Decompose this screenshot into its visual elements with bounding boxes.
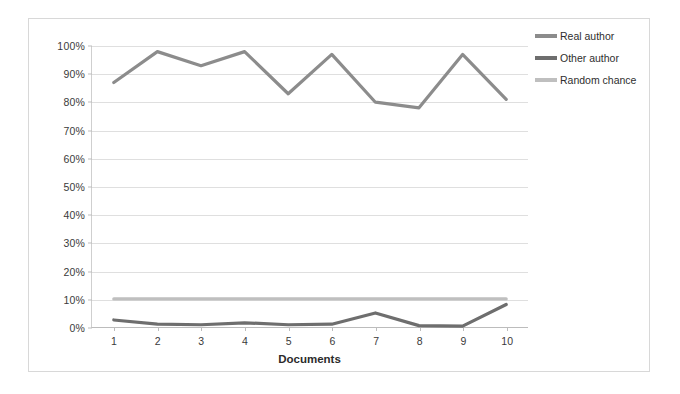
x-tick-label: 9: [461, 335, 467, 347]
x-tick-label: 8: [417, 335, 423, 347]
y-tick-label: 0%: [69, 322, 85, 334]
x-tick-label: 10: [501, 335, 513, 347]
legend-swatch-icon: [535, 78, 557, 82]
legend-swatch-icon: [535, 34, 557, 38]
legend-item-label: Random chance: [560, 74, 636, 86]
x-tick-label: 3: [198, 335, 204, 347]
x-tick-mark: [420, 327, 421, 331]
chart-legend: Real authorOther authorRandom chance: [535, 25, 647, 91]
x-tick-mark: [332, 327, 333, 331]
y-tick-label: 90%: [63, 68, 85, 80]
x-tick-label: 4: [242, 335, 248, 347]
series-line: [114, 305, 506, 327]
x-tick-mark: [289, 327, 290, 331]
x-tick-mark: [376, 327, 377, 331]
y-tick-label: 70%: [63, 125, 85, 137]
legend-item[interactable]: Other author: [535, 47, 647, 69]
x-tick-mark: [114, 327, 115, 331]
series-lines: [92, 46, 528, 327]
legend-swatch-icon: [535, 56, 557, 60]
x-tick-mark: [463, 327, 464, 331]
x-tick-mark: [245, 327, 246, 331]
y-tick-label: 40%: [63, 209, 85, 221]
legend-item-label: Real author: [560, 30, 614, 42]
x-tick-label: 7: [373, 335, 379, 347]
plot-area: 0%10%20%30%40%50%60%70%80%90%100% 123456…: [91, 46, 528, 328]
x-tick-mark: [158, 327, 159, 331]
legend-item[interactable]: Real author: [535, 25, 647, 47]
y-tick-label: 10%: [63, 294, 85, 306]
x-tick-label: 2: [155, 335, 161, 347]
x-axis-title: Documents: [91, 353, 528, 365]
y-tick-label: 80%: [63, 96, 85, 108]
y-tick-label: 30%: [63, 237, 85, 249]
x-tick-label: 1: [111, 335, 117, 347]
y-tick-label: 20%: [63, 266, 85, 278]
y-tick-label: 60%: [63, 153, 85, 165]
legend-item[interactable]: Random chance: [535, 69, 647, 91]
y-tick-mark: [88, 328, 92, 329]
x-tick-mark: [507, 327, 508, 331]
chart-frame: 0%10%20%30%40%50%60%70%80%90%100% 123456…: [28, 18, 650, 372]
legend-item-label: Other author: [560, 52, 619, 64]
series-line: [114, 52, 506, 108]
y-tick-label: 100%: [57, 40, 85, 52]
x-tick-mark: [201, 327, 202, 331]
y-tick-label: 50%: [63, 181, 85, 193]
x-tick-label: 6: [329, 335, 335, 347]
x-tick-label: 5: [286, 335, 292, 347]
